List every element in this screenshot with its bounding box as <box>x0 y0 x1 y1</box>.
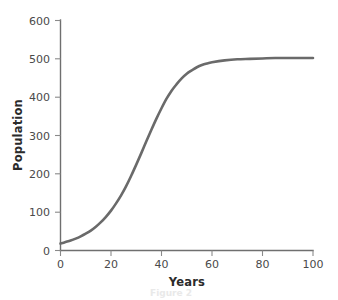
y-tick-marks <box>55 21 61 251</box>
y-tick-label-600: 600 <box>29 15 50 28</box>
y-tick-label-0: 0 <box>43 245 50 258</box>
y-tick-label-200: 200 <box>29 168 50 181</box>
x-tick-label-0: 0 <box>57 258 64 271</box>
y-axis-title: Population <box>11 99 25 171</box>
scan-artifact: Figure 2 <box>150 288 192 298</box>
x-tick-label-80: 80 <box>256 258 270 271</box>
x-tick-label-20: 20 <box>104 258 118 271</box>
population-curve <box>61 58 314 244</box>
x-tick-label-100: 100 <box>303 258 324 271</box>
y-tick-label-400: 400 <box>29 91 50 104</box>
x-tick-labels: 0 20 40 60 80 100 <box>57 258 324 271</box>
chart-figure: 0 100 200 300 400 500 600 0 20 40 60 80 … <box>0 0 338 300</box>
x-tick-marks <box>61 251 314 257</box>
y-tick-label-300: 300 <box>29 130 50 143</box>
x-tick-label-60: 60 <box>205 258 219 271</box>
x-axis-title: Years <box>168 275 205 289</box>
population-growth-chart: 0 100 200 300 400 500 600 0 20 40 60 80 … <box>0 0 338 300</box>
y-tick-labels: 0 100 200 300 400 500 600 <box>29 15 50 258</box>
x-tick-label-40: 40 <box>155 258 169 271</box>
y-tick-label-100: 100 <box>29 206 50 219</box>
y-tick-label-500: 500 <box>29 53 50 66</box>
axes-group <box>61 20 314 251</box>
